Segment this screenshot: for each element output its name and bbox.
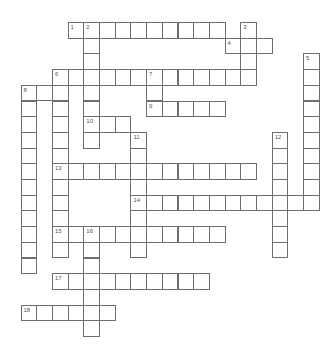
crossword-cell[interactable]: 4 bbox=[225, 38, 242, 55]
crossword-cell[interactable] bbox=[162, 163, 179, 180]
crossword-cell[interactable] bbox=[240, 195, 257, 212]
crossword-cell[interactable] bbox=[99, 273, 116, 290]
crossword-cell[interactable]: 14 bbox=[130, 195, 147, 212]
crossword-cell[interactable] bbox=[178, 195, 195, 212]
crossword-cell[interactable]: 6 bbox=[52, 69, 69, 86]
crossword-cell[interactable] bbox=[115, 163, 132, 180]
crossword-cell[interactable] bbox=[115, 273, 132, 290]
crossword-cell[interactable] bbox=[130, 148, 147, 165]
crossword-cell[interactable] bbox=[303, 85, 320, 102]
crossword-cell[interactable]: 17 bbox=[52, 273, 69, 290]
crossword-cell[interactable] bbox=[99, 305, 116, 322]
crossword-cell[interactable] bbox=[52, 242, 69, 259]
crossword-cell[interactable] bbox=[99, 226, 116, 243]
crossword-cell[interactable] bbox=[193, 22, 210, 39]
crossword-cell[interactable] bbox=[21, 258, 38, 275]
crossword-cell[interactable] bbox=[272, 179, 289, 196]
crossword-cell[interactable] bbox=[68, 226, 85, 243]
crossword-cell[interactable] bbox=[303, 148, 320, 165]
crossword-cell[interactable] bbox=[162, 273, 179, 290]
crossword-cell[interactable] bbox=[303, 69, 320, 86]
crossword-cell[interactable] bbox=[36, 305, 53, 322]
crossword-cell[interactable] bbox=[146, 22, 163, 39]
crossword-cell[interactable] bbox=[146, 163, 163, 180]
crossword-cell[interactable] bbox=[83, 242, 100, 259]
crossword-cell[interactable]: 8 bbox=[21, 85, 38, 102]
crossword-cell[interactable] bbox=[193, 226, 210, 243]
crossword-cell[interactable] bbox=[240, 163, 257, 180]
crossword-cell[interactable] bbox=[68, 305, 85, 322]
crossword-cell[interactable] bbox=[209, 226, 226, 243]
crossword-cell[interactable]: 16 bbox=[83, 226, 100, 243]
crossword-cell[interactable] bbox=[162, 22, 179, 39]
crossword-cell[interactable]: 13 bbox=[52, 163, 69, 180]
crossword-cell[interactable]: 2 bbox=[83, 22, 100, 39]
crossword-cell[interactable] bbox=[178, 163, 195, 180]
crossword-cell[interactable] bbox=[193, 273, 210, 290]
crossword-cell[interactable] bbox=[83, 163, 100, 180]
crossword-cell[interactable] bbox=[225, 69, 242, 86]
crossword-cell[interactable]: 7 bbox=[146, 69, 163, 86]
crossword-cell[interactable] bbox=[83, 132, 100, 149]
crossword-cell[interactable] bbox=[52, 305, 69, 322]
crossword-cell[interactable] bbox=[21, 226, 38, 243]
crossword-cell[interactable] bbox=[303, 179, 320, 196]
crossword-cell[interactable] bbox=[130, 163, 147, 180]
crossword-cell[interactable] bbox=[209, 163, 226, 180]
crossword-cell[interactable] bbox=[162, 195, 179, 212]
crossword-cell[interactable] bbox=[99, 116, 116, 133]
crossword-cell[interactable] bbox=[52, 85, 69, 102]
crossword-cell[interactable] bbox=[99, 69, 116, 86]
crossword-cell[interactable] bbox=[162, 101, 179, 118]
crossword-cell[interactable] bbox=[303, 163, 320, 180]
crossword-cell[interactable] bbox=[272, 148, 289, 165]
crossword-cell[interactable]: 3 bbox=[240, 22, 257, 39]
crossword-cell[interactable]: 11 bbox=[130, 132, 147, 149]
crossword-cell[interactable] bbox=[99, 163, 116, 180]
crossword-cell[interactable] bbox=[130, 226, 147, 243]
crossword-cell[interactable] bbox=[52, 195, 69, 212]
crossword-cell[interactable]: 1 bbox=[68, 22, 85, 39]
crossword-cell[interactable] bbox=[83, 258, 100, 275]
crossword-cell[interactable] bbox=[178, 101, 195, 118]
crossword-cell[interactable] bbox=[146, 195, 163, 212]
crossword-cell[interactable] bbox=[21, 195, 38, 212]
crossword-cell[interactable] bbox=[287, 195, 304, 212]
crossword-cell[interactable]: 18 bbox=[21, 305, 38, 322]
crossword-cell[interactable] bbox=[303, 132, 320, 149]
crossword-cell[interactable] bbox=[83, 38, 100, 55]
crossword-cell[interactable] bbox=[83, 69, 100, 86]
crossword-cell[interactable] bbox=[83, 101, 100, 118]
crossword-cell[interactable] bbox=[272, 195, 289, 212]
crossword-cell[interactable] bbox=[272, 163, 289, 180]
crossword-cell[interactable] bbox=[115, 22, 132, 39]
crossword-cell[interactable] bbox=[68, 163, 85, 180]
crossword-cell[interactable] bbox=[240, 38, 257, 55]
crossword-cell[interactable] bbox=[146, 273, 163, 290]
crossword-cell[interactable] bbox=[21, 163, 38, 180]
crossword-cell[interactable] bbox=[209, 101, 226, 118]
crossword-cell[interactable]: 12 bbox=[272, 132, 289, 149]
crossword-cell[interactable]: 15 bbox=[52, 226, 69, 243]
crossword-cell[interactable] bbox=[52, 101, 69, 118]
crossword-cell[interactable] bbox=[178, 226, 195, 243]
crossword-cell[interactable] bbox=[130, 69, 147, 86]
crossword-cell[interactable] bbox=[52, 116, 69, 133]
crossword-cell[interactable] bbox=[130, 179, 147, 196]
crossword-cell[interactable] bbox=[240, 53, 257, 70]
crossword-cell[interactable] bbox=[130, 22, 147, 39]
crossword-cell[interactable] bbox=[225, 195, 242, 212]
crossword-cell[interactable] bbox=[99, 22, 116, 39]
crossword-cell[interactable] bbox=[36, 85, 53, 102]
crossword-cell[interactable] bbox=[52, 210, 69, 227]
crossword-cell[interactable] bbox=[83, 320, 100, 337]
crossword-cell[interactable] bbox=[193, 69, 210, 86]
crossword-cell[interactable] bbox=[130, 210, 147, 227]
crossword-cell[interactable] bbox=[272, 242, 289, 259]
crossword-cell[interactable] bbox=[52, 179, 69, 196]
crossword-cell[interactable] bbox=[209, 69, 226, 86]
crossword-cell[interactable] bbox=[303, 195, 320, 212]
crossword-cell[interactable] bbox=[21, 101, 38, 118]
crossword-cell[interactable] bbox=[272, 226, 289, 243]
crossword-cell[interactable] bbox=[162, 226, 179, 243]
